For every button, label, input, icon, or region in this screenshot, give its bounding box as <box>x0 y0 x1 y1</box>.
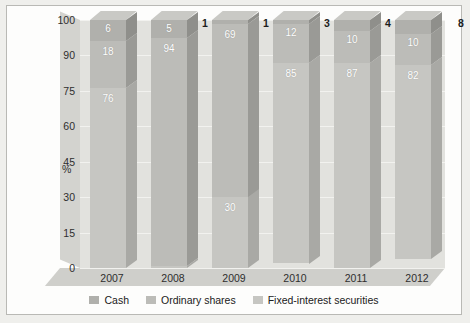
plot-area: 1009075604530150 % 618765946930128510871… <box>60 20 445 286</box>
bar-outside-label: 3 <box>324 17 330 29</box>
y-tick-label: 0 <box>69 262 75 274</box>
bar-value-label: 18 <box>90 46 126 57</box>
y-tick-label: 90 <box>63 49 75 61</box>
bar-segment-2010-fixed-interest-securities[interactable]: 85 <box>273 63 309 264</box>
bar-segment-2011-ordinary-shares[interactable]: 10 <box>334 31 370 63</box>
bar-segment-side <box>431 57 442 259</box>
bar-outside-label: 4 <box>385 17 391 29</box>
y-tick-label: 75 <box>63 85 75 97</box>
legend: CashOrdinary sharesFixed-interest securi… <box>7 294 461 306</box>
bar-segment-side <box>309 55 320 264</box>
x-tick-label-2011: 2011 <box>345 272 368 284</box>
bar-value-label: 10 <box>395 37 431 48</box>
bar-value-label: 30 <box>212 202 248 213</box>
y-tick-label: 100 <box>57 14 75 26</box>
legend-swatch-icon <box>89 296 99 304</box>
bar-segment-2008-ordinary-shares[interactable]: 94 <box>151 38 187 266</box>
bar-segment-2007-ordinary-shares[interactable]: 18 <box>90 41 126 88</box>
bar-segment-side <box>187 30 198 266</box>
x-tick-label-2010: 2010 <box>283 272 306 284</box>
legend-swatch-icon <box>253 296 263 304</box>
x-tick-label-2008: 2008 <box>161 272 184 284</box>
legend-label: Ordinary shares <box>161 294 236 306</box>
bar-value-label: 6 <box>90 23 126 34</box>
bar-segment-2007-fixed-interest-securities[interactable]: 76 <box>90 88 126 268</box>
bar-segment-2012-ordinary-shares[interactable]: 10 <box>395 34 431 65</box>
bar-2008[interactable]: 594 <box>151 20 187 268</box>
bar-segment-2010-ordinary-shares[interactable]: 12 <box>273 24 309 63</box>
legend-item-ordinary-shares[interactable]: Ordinary shares <box>146 294 236 306</box>
bar-segment-2011-fixed-interest-securities[interactable]: 87 <box>334 63 370 268</box>
chart-card: 1009075604530150 % 618765946930128510871… <box>6 5 462 315</box>
x-tick-label-2007: 2007 <box>100 272 123 284</box>
bar-value-label: 94 <box>151 43 187 54</box>
legend-label: Fixed-interest securities <box>268 294 379 306</box>
bar-group: 61876594693012851087108211348 <box>80 20 445 268</box>
bar-2012[interactable]: 1082 <box>395 20 431 268</box>
bar-value-label: 87 <box>334 68 370 79</box>
bar-segment-2008-fixed-interest-securities[interactable] <box>151 266 187 268</box>
y-axis-title: % <box>62 163 71 175</box>
bar-segment-2009-ordinary-shares[interactable]: 69 <box>212 24 248 198</box>
bar-segment-side <box>126 80 137 267</box>
y-tick-label: 30 <box>63 191 75 203</box>
bar-value-label: 10 <box>334 34 370 45</box>
bar-segment-2012-fixed-interest-securities[interactable]: 82 <box>395 65 431 259</box>
chart-root: 1009075604530150 % 618765946930128510871… <box>0 0 470 323</box>
legend-label: Cash <box>104 294 129 306</box>
bar-segment-2009-fixed-interest-securities[interactable]: 30 <box>212 197 248 268</box>
bar-segment-side <box>248 16 259 198</box>
x-axis-labels: 200720082009201020112012 <box>80 272 445 288</box>
bar-outside-label: 8 <box>458 17 464 29</box>
bar-segment-2011-cash[interactable] <box>334 20 370 31</box>
bar-2009[interactable]: 6930 <box>212 20 248 268</box>
y-tick-label: 15 <box>63 227 75 239</box>
bar-segment-side <box>370 55 381 268</box>
bar-value-label: 5 <box>151 23 187 34</box>
x-tick-label-2009: 2009 <box>222 272 245 284</box>
x-tick-label-2012: 2012 <box>405 272 428 284</box>
bar-segment-2008-cash[interactable]: 5 <box>151 20 187 38</box>
bar-outside-label: 1 <box>263 17 269 29</box>
bar-2010[interactable]: 1285 <box>273 20 309 268</box>
legend-swatch-icon <box>146 296 156 304</box>
bar-value-label: 76 <box>90 93 126 104</box>
bar-segment-2012-cash[interactable] <box>395 20 431 34</box>
bar-value-label: 82 <box>395 70 431 81</box>
bar-value-label: 12 <box>273 27 309 38</box>
bar-2007[interactable]: 61876 <box>90 20 126 268</box>
legend-item-fixed-interest-securities[interactable]: Fixed-interest securities <box>253 294 379 306</box>
bar-segment-side <box>248 189 259 268</box>
y-tick-label: 60 <box>63 120 75 132</box>
bar-2011[interactable]: 1087 <box>334 20 370 268</box>
bar-outside-label: 1 <box>202 17 208 29</box>
bar-value-label: 69 <box>212 29 248 40</box>
bar-segment-2007-cash[interactable]: 6 <box>90 20 126 41</box>
bar-value-label: 85 <box>273 68 309 79</box>
legend-item-cash[interactable]: Cash <box>89 294 129 306</box>
